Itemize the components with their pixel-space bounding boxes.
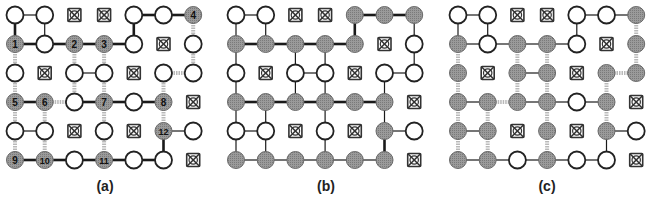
blocked-node-icon xyxy=(570,67,583,80)
shaded-node xyxy=(450,36,467,53)
blocked-node-icon xyxy=(348,125,361,138)
open-node xyxy=(228,123,245,140)
node-number-label: 5 xyxy=(12,97,18,108)
node-number-label: 3 xyxy=(101,39,107,50)
open-node xyxy=(509,152,526,169)
open-node xyxy=(125,94,142,111)
shaded-node xyxy=(450,94,467,111)
blocked-node-icon xyxy=(511,9,524,22)
open-node xyxy=(568,7,585,24)
shaded-node xyxy=(346,152,363,169)
open-node xyxy=(7,7,24,24)
shaded-node xyxy=(287,36,304,53)
blocked-node-icon xyxy=(630,96,643,109)
shaded-node xyxy=(509,36,526,53)
shaded-node xyxy=(287,152,304,169)
blocked-node-icon xyxy=(259,67,272,80)
shaded-node xyxy=(450,65,467,82)
blocked-node-icon xyxy=(319,9,332,22)
node-number-label: 7 xyxy=(101,97,107,108)
blocked-node-icon xyxy=(127,67,140,80)
node-number-label: 11 xyxy=(99,156,109,166)
shaded-node xyxy=(228,94,245,111)
open-node xyxy=(628,123,645,140)
blocked-node-icon xyxy=(408,96,421,109)
blocked-node-icon xyxy=(348,67,361,80)
panel-a-graph: 412356781291011 xyxy=(7,7,202,169)
open-node xyxy=(185,65,202,82)
open-node xyxy=(450,7,467,24)
open-node xyxy=(228,65,245,82)
open-node xyxy=(185,123,202,140)
open-node xyxy=(66,152,83,169)
panel-c-graph xyxy=(450,7,645,169)
open-node xyxy=(7,123,24,140)
open-node xyxy=(406,123,423,140)
blocked-node-icon xyxy=(187,154,200,167)
shaded-node xyxy=(376,152,393,169)
shaded-node xyxy=(376,123,393,140)
open-node xyxy=(125,7,142,24)
open-node xyxy=(125,152,142,169)
shaded-node xyxy=(376,7,393,24)
shaded-node xyxy=(257,36,274,53)
node-number-label: 2 xyxy=(72,39,78,50)
blocked-node-icon xyxy=(511,125,524,138)
shaded-node xyxy=(406,7,423,24)
open-node xyxy=(185,36,202,53)
open-node xyxy=(155,152,172,169)
node-number-label: 10 xyxy=(40,156,50,166)
open-node xyxy=(66,94,83,111)
node-number-label: 4 xyxy=(190,10,196,21)
shaded-node xyxy=(628,7,645,24)
shaded-node xyxy=(479,123,496,140)
shaded-node xyxy=(376,94,393,111)
shaded-node xyxy=(317,36,334,53)
blocked-node-icon xyxy=(127,125,140,138)
blocked-node-icon xyxy=(289,125,302,138)
open-node xyxy=(479,36,496,53)
shaded-node xyxy=(509,94,526,111)
shaded-node xyxy=(598,123,615,140)
shaded-node xyxy=(228,152,245,169)
shaded-node xyxy=(598,94,615,111)
open-node xyxy=(155,65,172,82)
shaded-node xyxy=(450,152,467,169)
open-node xyxy=(155,7,172,24)
blocked-node-icon xyxy=(289,9,302,22)
open-node xyxy=(125,36,142,53)
node-number-label: 1 xyxy=(12,39,18,50)
blocked-node-icon xyxy=(378,38,391,51)
open-node xyxy=(568,36,585,53)
shaded-node xyxy=(346,36,363,53)
blocked-node-icon xyxy=(38,67,51,80)
open-node xyxy=(376,65,393,82)
blocked-node-icon xyxy=(187,96,200,109)
node-number-label: 9 xyxy=(12,155,18,166)
panel-b-caption: (b) xyxy=(296,178,356,194)
shaded-node xyxy=(598,65,615,82)
blocked-node-icon xyxy=(68,125,81,138)
shaded-node xyxy=(628,65,645,82)
shaded-node xyxy=(257,152,274,169)
shaded-node xyxy=(257,94,274,111)
open-node xyxy=(317,123,334,140)
shaded-node xyxy=(317,94,334,111)
shaded-node xyxy=(317,152,334,169)
open-node xyxy=(287,65,304,82)
shaded-node xyxy=(539,123,556,140)
open-node xyxy=(406,65,423,82)
open-node xyxy=(36,7,53,24)
blocked-node-icon xyxy=(570,125,583,138)
grid-figure: 412356781291011 xyxy=(0,0,655,208)
open-node xyxy=(96,65,113,82)
blocked-node-icon xyxy=(481,67,494,80)
open-node xyxy=(96,123,113,140)
shaded-node xyxy=(346,94,363,111)
shaded-node xyxy=(287,94,304,111)
open-node xyxy=(598,7,615,24)
panel-b-graph xyxy=(228,7,423,169)
open-node xyxy=(406,36,423,53)
open-node xyxy=(317,65,334,82)
open-node xyxy=(7,65,24,82)
